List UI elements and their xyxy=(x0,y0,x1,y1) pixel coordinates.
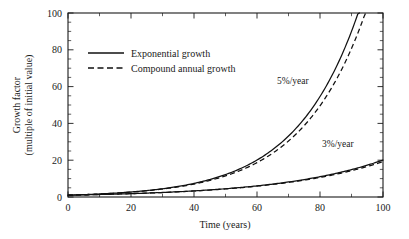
y-axis-tick-labels: 020406080100 xyxy=(47,8,62,203)
y-axis-ticks xyxy=(68,13,383,197)
x-tick-label: 0 xyxy=(66,202,71,213)
y-tick-label: 0 xyxy=(57,192,62,203)
x-tick-label: 60 xyxy=(252,202,262,213)
x-tick-label: 20 xyxy=(126,202,136,213)
curve-compound-3pct xyxy=(68,162,383,196)
x-tick-label: 40 xyxy=(189,202,199,213)
chart-legend: Exponential growth Compound annual growt… xyxy=(88,48,235,74)
x-tick-label: 100 xyxy=(376,202,391,213)
x-axis-ticks xyxy=(68,13,383,197)
curve-compound-5pct xyxy=(68,13,366,195)
annotation-3-year: 3%/year xyxy=(322,139,354,149)
annotation-5-year: 5%/year xyxy=(277,76,309,86)
legend-label-exponential: Exponential growth xyxy=(131,48,210,59)
growth-factor-chart: 020406080100 020406080100 5%/year3%/year… xyxy=(0,0,409,239)
legend-label-compound: Compound annual growth xyxy=(131,63,235,74)
x-axis-title: Time (years) xyxy=(199,219,250,231)
data-curves xyxy=(68,13,383,195)
y-tick-label: 40 xyxy=(52,118,62,129)
curve-exponential-3pct xyxy=(68,160,383,195)
x-axis-tick-labels: 020406080100 xyxy=(66,202,391,213)
y-tick-label: 80 xyxy=(52,44,62,55)
plot-frame xyxy=(68,13,383,197)
curve-exponential-5pct xyxy=(68,13,359,195)
y-axis-title-line2: (multiple of initial value) xyxy=(23,55,35,156)
y-tick-label: 100 xyxy=(47,8,62,19)
y-tick-label: 20 xyxy=(52,155,62,166)
y-tick-label: 60 xyxy=(52,81,62,92)
y-axis-title-line1: Growth factor xyxy=(11,76,22,133)
x-tick-label: 80 xyxy=(315,202,325,213)
figure-container: 020406080100 020406080100 5%/year3%/year… xyxy=(0,0,409,239)
